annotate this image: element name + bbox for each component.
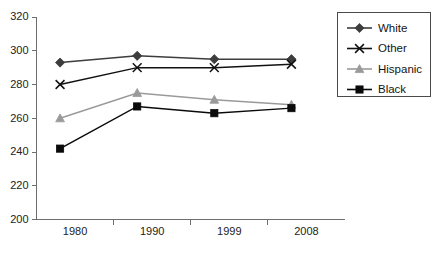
series-white xyxy=(55,51,296,67)
figure-caption xyxy=(0,250,435,257)
data-point-white-1980 xyxy=(55,58,64,67)
data-point-black-1990 xyxy=(134,103,141,110)
legend-marker-black xyxy=(356,86,363,93)
x-tick-label-1980: 1980 xyxy=(63,225,87,237)
x-axis-tick-labels: 1980199019992008 xyxy=(63,225,319,237)
chart-figure: 200220240260280300320 1980199019992008 W… xyxy=(0,0,435,257)
y-axis-ticks xyxy=(32,17,37,220)
x-axis-ticks xyxy=(114,220,268,225)
line-chart: 200220240260280300320 1980199019992008 W… xyxy=(0,0,435,257)
series-line-other xyxy=(60,64,291,84)
y-axis-tick-labels: 200220240260280300320 xyxy=(10,10,28,225)
data-series-layer xyxy=(55,51,296,152)
legend-label-other: Other xyxy=(378,42,407,54)
legend: WhiteOtherHispanicBlack xyxy=(338,13,431,97)
data-point-black-1980 xyxy=(56,145,63,152)
y-axis: 200220240260280300320 xyxy=(10,10,36,225)
x-tick-label-2008: 2008 xyxy=(294,225,318,237)
data-point-white-1999 xyxy=(210,55,219,64)
series-hispanic xyxy=(56,89,296,122)
legend-label-white: White xyxy=(378,22,407,34)
y-tick-label-280: 280 xyxy=(10,78,28,90)
y-tick-label-240: 240 xyxy=(10,145,28,157)
series-black xyxy=(56,103,295,152)
y-tick-label-320: 320 xyxy=(10,10,28,22)
y-tick-label-220: 220 xyxy=(10,179,28,191)
y-tick-label-200: 200 xyxy=(10,213,28,225)
series-line-black xyxy=(60,106,291,148)
data-point-black-2008 xyxy=(288,105,295,112)
series-other xyxy=(56,60,296,89)
y-tick-label-300: 300 xyxy=(10,44,28,56)
data-point-white-1990 xyxy=(133,51,142,60)
legend-label-hispanic: Hispanic xyxy=(378,63,422,75)
data-point-white-2008 xyxy=(287,55,296,64)
data-point-black-1999 xyxy=(211,110,218,117)
x-tick-label-1999: 1999 xyxy=(217,225,241,237)
y-tick-label-260: 260 xyxy=(10,112,28,124)
x-axis: 1980199019992008 xyxy=(37,220,346,237)
legend-label-black: Black xyxy=(378,83,406,95)
x-tick-label-1990: 1990 xyxy=(140,225,164,237)
series-line-hispanic xyxy=(60,93,291,118)
series-line-white xyxy=(60,56,291,63)
